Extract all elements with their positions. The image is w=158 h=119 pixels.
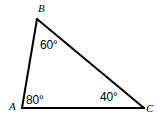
vertex-label-c: C [146,103,153,114]
triangle-figure: A B C 80° 60° 40° [0,0,158,119]
vertex-label-b: B [38,3,45,14]
triangle-shape [0,0,158,119]
angle-label-c: 40° [100,91,118,103]
vertex-label-a: A [9,101,16,112]
angle-label-a: 80° [26,94,44,106]
side-bc [37,19,144,108]
angle-label-b: 60° [40,39,58,51]
